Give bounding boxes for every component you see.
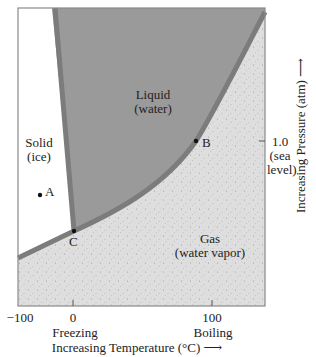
solid-title: Solid	[22, 136, 56, 150]
freezing-label: Freezing	[45, 326, 105, 340]
y-tick-value: 1.0	[267, 135, 293, 149]
x-axis-title: Increasing Temperature (°C) ⟶	[42, 341, 232, 355]
y-tick-note-1: (sea	[267, 149, 293, 163]
y-tick-note-2: level)	[267, 163, 293, 177]
gas-title: Gas	[165, 232, 255, 246]
x-tick-label-100: 100	[195, 311, 229, 325]
point-a-label: A	[45, 185, 54, 199]
y-tick-label-1atm: 1.0 (sea level)	[267, 135, 293, 177]
boiling-label: Boiling	[185, 326, 241, 340]
x-tick-label-0: 0	[63, 311, 83, 325]
point-b-marker	[194, 139, 198, 143]
liquid-subtitle: (water)	[128, 102, 178, 116]
liquid-label: Liquid (water)	[128, 88, 178, 116]
gas-subtitle: (water vapor)	[165, 246, 255, 260]
point-c-marker	[72, 229, 76, 233]
point-a-marker	[38, 193, 42, 197]
solid-label: Solid (ice)	[22, 136, 56, 164]
liquid-title: Liquid	[128, 88, 178, 102]
phase-diagram	[0, 0, 316, 357]
y-axis-title: Increasing Pressure (atm) ⟶	[293, 58, 309, 213]
x-tick-label-neg100: −100	[2, 311, 38, 325]
gas-label: Gas (water vapor)	[165, 232, 255, 260]
point-b-label: B	[202, 136, 211, 150]
point-c-label: C	[69, 235, 78, 249]
solid-subtitle: (ice)	[22, 150, 56, 164]
